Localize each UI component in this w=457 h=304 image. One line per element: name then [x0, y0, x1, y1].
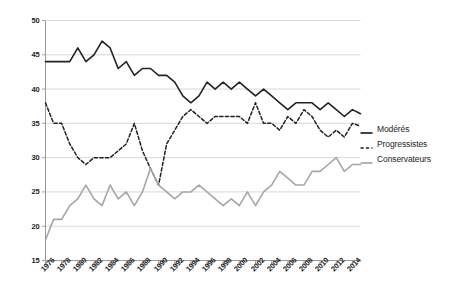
legend-label: Modérés — [377, 124, 409, 134]
y-tick-label: 50 — [22, 16, 40, 25]
legend-item: Modérés — [360, 122, 456, 136]
y-tick-label: 40 — [22, 85, 40, 94]
y-tick-label: 35 — [22, 119, 40, 128]
y-tick-label: 20 — [22, 222, 40, 231]
legend-swatch-conservateurs-icon — [360, 154, 373, 164]
y-tick-label: 30 — [22, 153, 40, 162]
series-line-conservateurs — [46, 158, 361, 240]
chart-legend: ModérésProgressistesConservateurs — [360, 122, 456, 167]
y-tick-label: 25 — [22, 187, 40, 196]
legend-label: Conservateurs — [377, 154, 431, 164]
series-line-progressistes — [46, 103, 361, 185]
legend-label: Progressistes — [377, 139, 427, 149]
data-series-group — [46, 41, 361, 240]
x-axis-ticks — [42, 21, 352, 265]
legend-swatch-progressistes-icon — [360, 139, 373, 149]
y-tick-label: 15 — [22, 256, 40, 265]
legend-swatch-modrs-icon — [360, 124, 373, 134]
y-tick-label: 45 — [22, 50, 40, 59]
series-line-modrs — [46, 41, 361, 116]
legend-item: Progressistes — [360, 137, 456, 151]
chart-figure: 1520253035404550 19761978198019821984198… — [0, 0, 457, 304]
legend-item: Conservateurs — [360, 152, 456, 166]
